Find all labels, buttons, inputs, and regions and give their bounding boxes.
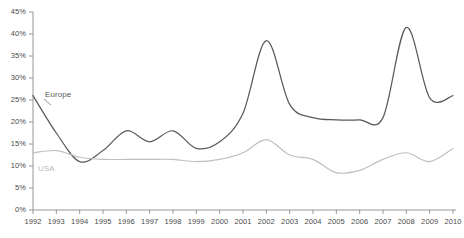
x-axis-tick-label: 1996 bbox=[113, 217, 139, 226]
y-axis-tick-label: 20% bbox=[0, 117, 26, 126]
y-axis-tick-label: 15% bbox=[0, 139, 26, 148]
chart-series-lines bbox=[33, 27, 453, 173]
x-axis-tick-label: 2009 bbox=[417, 217, 443, 226]
label-leader-lines bbox=[44, 99, 51, 105]
x-axis-tick-label: 1998 bbox=[160, 217, 186, 226]
x-axis-tick-label: 2002 bbox=[253, 217, 279, 226]
y-axis-tick-label: 40% bbox=[0, 29, 26, 38]
y-axis-tick-label: 25% bbox=[0, 95, 26, 104]
y-axis-tick-label: 10% bbox=[0, 161, 26, 170]
x-axis-tick-label: 2005 bbox=[323, 217, 349, 226]
y-axis-tick-label: 35% bbox=[0, 51, 26, 60]
y-axis-tick-label: 45% bbox=[0, 7, 26, 16]
x-axis-tick-label: 1994 bbox=[67, 217, 93, 226]
x-axis-tick-label: 2003 bbox=[277, 217, 303, 226]
x-axis-tick-label: 2008 bbox=[393, 217, 419, 226]
series-label-usa: USA bbox=[38, 164, 55, 173]
x-axis-tick-label: 1995 bbox=[90, 217, 116, 226]
x-axis-tick-label: 2010 bbox=[440, 217, 464, 226]
x-axis-tick-label: 2001 bbox=[230, 217, 256, 226]
y-axis-ticks bbox=[29, 12, 33, 210]
y-axis-tick-label: 5% bbox=[0, 183, 26, 192]
x-axis-tick-label: 2004 bbox=[300, 217, 326, 226]
x-axis-tick-label: 1993 bbox=[43, 217, 69, 226]
x-axis-ticks bbox=[33, 210, 453, 214]
y-axis-tick-label: 30% bbox=[0, 73, 26, 82]
x-axis-tick-label: 1999 bbox=[183, 217, 209, 226]
line-chart: 0%5%10%15%20%25%30%35%40%45% 19921993199… bbox=[0, 0, 464, 238]
x-axis-tick-label: 2007 bbox=[370, 217, 396, 226]
x-axis-tick-label: 2000 bbox=[207, 217, 233, 226]
y-axis-tick-label: 0% bbox=[0, 205, 26, 214]
x-axis-tick-label: 1992 bbox=[20, 217, 46, 226]
series-label-europe: Europe bbox=[45, 90, 71, 99]
x-axis-tick-label: 1997 bbox=[137, 217, 163, 226]
x-axis-tick-label: 2006 bbox=[347, 217, 373, 226]
series-line-europe bbox=[33, 27, 453, 162]
chart-plot-area bbox=[0, 0, 464, 238]
